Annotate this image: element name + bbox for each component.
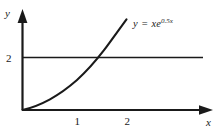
equation-operator: = bbox=[142, 18, 148, 29]
x-tick-label-1: 1 bbox=[75, 115, 81, 127]
equation-label: y=xe0.5x bbox=[132, 17, 174, 30]
plot-canvas: y x 2 1 2 y=xe0.5x bbox=[0, 0, 224, 130]
x-axis-label: x bbox=[205, 116, 211, 128]
equation-exponent: 0.5x bbox=[161, 17, 174, 25]
y-axis-label: y bbox=[4, 7, 10, 19]
y-tick-label-2: 2 bbox=[6, 52, 12, 64]
x-axis-arrowhead bbox=[199, 105, 213, 115]
x-tick-label-2: 2 bbox=[125, 115, 131, 127]
equation-base: xe bbox=[151, 18, 162, 29]
exponential-curve bbox=[23, 19, 127, 110]
graph-figure: y x 2 1 2 y=xe0.5x bbox=[0, 0, 224, 130]
y-axis-arrowhead bbox=[18, 9, 28, 23]
equation-lhs: y bbox=[132, 18, 138, 29]
